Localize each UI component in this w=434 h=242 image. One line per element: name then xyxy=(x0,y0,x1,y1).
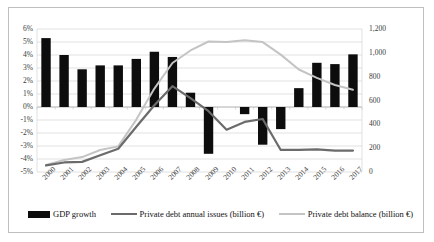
y-axis-left-tick: 6% xyxy=(12,25,33,33)
y-axis-left-tick: 4% xyxy=(12,51,33,59)
legend-item-gdp-growth[interactable]: GDP growth xyxy=(28,209,96,219)
bar-gdp-growth-2004 xyxy=(114,65,123,107)
bar-gdp-growth-2006 xyxy=(150,52,159,107)
y-axis-right-tick: 400 xyxy=(369,120,380,128)
chart-legend: GDP growth Private debt annual issues (b… xyxy=(28,206,413,222)
y-axis-left-tick: 3% xyxy=(12,64,33,72)
bar-gdp-growth-2001 xyxy=(59,55,68,107)
y-axis-left-tick: -1% xyxy=(12,116,33,124)
y-axis-left-tick: -2% xyxy=(12,129,33,137)
bar-swatch-icon xyxy=(28,211,50,218)
legend-item-private-debt-annual-issues[interactable]: Private debt annual issues (billion €) xyxy=(111,209,264,219)
bar-gdp-growth-2015 xyxy=(312,63,321,107)
y-axis-right-tick: 200 xyxy=(369,144,380,152)
y-axis-left-tick: 5% xyxy=(12,38,33,46)
bar-gdp-growth-2002 xyxy=(77,69,86,107)
legend-label: GDP growth xyxy=(53,209,96,219)
y-axis-right-tick: 1,000 xyxy=(369,49,386,57)
y-axis-right-tick: 1,200 xyxy=(369,25,386,33)
line-swatch-light-icon xyxy=(279,213,305,215)
y-axis-left-tick: 1% xyxy=(12,90,33,98)
y-axis-right-tick: 600 xyxy=(369,97,380,105)
y-axis-left-tick: 0% xyxy=(12,103,33,111)
y-axis-left-tick: 2% xyxy=(12,77,33,85)
bar-gdp-growth-2005 xyxy=(132,59,141,107)
y-axis-left-tick: -4% xyxy=(12,155,33,163)
y-axis-right-tick: 800 xyxy=(369,73,380,81)
bar-gdp-growth-2013 xyxy=(276,107,285,129)
legend-label: Private debt annual issues (billion €) xyxy=(140,209,264,219)
y-axis-left-tick: -3% xyxy=(12,142,33,150)
bar-gdp-growth-2000 xyxy=(41,38,50,107)
bar-gdp-growth-2003 xyxy=(96,65,105,107)
legend-item-private-debt-balance[interactable]: Private debt balance (billion €) xyxy=(279,209,413,219)
y-axis-left-tick: -5% xyxy=(12,168,33,176)
y-axis-right-tick: 0 xyxy=(369,168,373,176)
bar-gdp-growth-2017 xyxy=(348,54,357,107)
bar-gdp-growth-2011 xyxy=(240,107,249,114)
legend-label: Private debt balance (billion €) xyxy=(308,209,413,219)
line-swatch-dark-icon xyxy=(111,213,137,216)
bar-gdp-growth-2014 xyxy=(294,88,303,107)
